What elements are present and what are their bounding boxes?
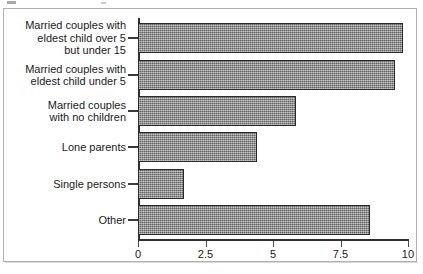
bar <box>138 96 296 126</box>
value-tick <box>341 241 342 247</box>
value-tick-label: 2.5 <box>198 248 214 260</box>
category-label: Married couples with eldest child under … <box>0 62 126 87</box>
figure: Married couples with eldest child over 5… <box>0 0 423 274</box>
value-tick-label: 5 <box>270 248 276 260</box>
category-tick <box>128 219 138 221</box>
category-tick <box>128 110 138 112</box>
category-tick <box>128 37 138 39</box>
value-tick-label: 7.5 <box>333 248 349 260</box>
value-tick-label: 10 <box>402 248 414 260</box>
category-axis-labels: Married couples with eldest child over 5… <box>0 0 126 274</box>
category-label: Married couples with eldest child over 5… <box>0 19 126 57</box>
value-tick <box>273 241 274 247</box>
value-tick <box>206 241 207 247</box>
bar <box>138 132 257 162</box>
category-label: Single persons <box>0 177 126 190</box>
category-label: Other <box>0 214 126 227</box>
bar <box>138 23 403 53</box>
bar <box>138 205 370 235</box>
category-tick <box>128 74 138 76</box>
category-tick <box>128 183 138 185</box>
category-label: Married couples with no children <box>0 98 126 123</box>
bar <box>138 169 184 199</box>
value-tick <box>138 241 139 247</box>
category-label: Lone parents <box>0 141 126 154</box>
bar <box>138 60 395 90</box>
value-tick-label: 0 <box>135 248 141 260</box>
value-tick <box>408 241 409 247</box>
category-tick <box>128 146 138 148</box>
